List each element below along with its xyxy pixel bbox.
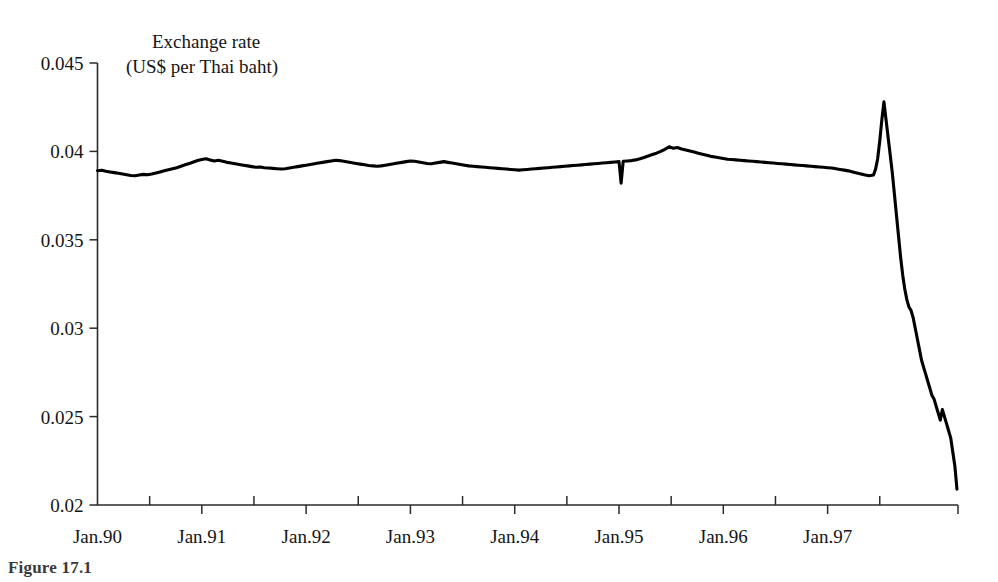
figure-caption: Figure 17.1 (8, 558, 92, 578)
y-tick-label: 0.04 (50, 141, 84, 162)
x-tick-label: Jan.92 (282, 526, 331, 547)
exchange-rate-chart: 0.0450.040.0350.030.0250.02Jan.90Jan.91J… (0, 0, 998, 582)
figure-root: 0.0450.040.0350.030.0250.02Jan.90Jan.91J… (0, 0, 998, 582)
x-tick-label: Jan.95 (594, 526, 643, 547)
x-tick-label: Jan.97 (803, 526, 852, 547)
x-tick-label: Jan.90 (73, 526, 122, 547)
chart-title: Exchange rate (152, 31, 260, 52)
data-series-line (98, 102, 957, 489)
y-tick-label: 0.045 (41, 53, 84, 74)
y-tick-label: 0.02 (50, 495, 83, 516)
y-tick-label: 0.035 (41, 230, 84, 251)
y-tick-label: 0.025 (41, 407, 84, 428)
y-tick-label: 0.03 (50, 318, 83, 339)
x-tick-label: Jan.93 (386, 526, 435, 547)
x-tick-label: Jan.94 (490, 526, 540, 547)
x-tick-label: Jan.91 (177, 526, 226, 547)
chart-subtitle: (US$ per Thai baht) (126, 56, 278, 78)
x-tick-label: Jan.96 (699, 526, 748, 547)
chart-axes (98, 63, 959, 505)
